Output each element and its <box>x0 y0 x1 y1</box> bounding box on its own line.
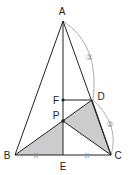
tick-ec: ıı <box>85 151 89 160</box>
label-d: D <box>97 91 104 102</box>
point-f <box>61 98 64 101</box>
shaded-triangle-pdc <box>63 100 111 155</box>
label-b: B <box>4 150 11 161</box>
label-f: F <box>53 95 59 106</box>
label-a: A <box>59 6 66 17</box>
geometry-diagram: ıı ıı ③ ② A B C E F D P <box>0 0 129 175</box>
label-e: E <box>60 161 67 172</box>
label-c: C <box>114 150 121 161</box>
tick-be: ıı <box>34 151 38 160</box>
ratio-label-dc: ② <box>106 120 113 129</box>
point-p <box>61 119 65 123</box>
ratio-label-ad: ③ <box>85 53 92 62</box>
label-p: P <box>53 110 60 121</box>
